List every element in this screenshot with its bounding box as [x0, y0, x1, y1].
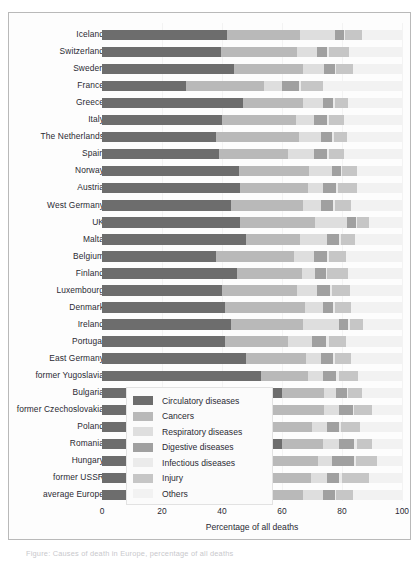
bar-segment	[342, 166, 357, 177]
bar-segment	[282, 81, 299, 92]
bar-segment	[323, 81, 402, 92]
bar-segment	[323, 98, 334, 109]
bar-segment	[300, 30, 335, 41]
bar-segment	[318, 456, 332, 467]
bar-row: Ireland	[9, 317, 412, 334]
bar-segment	[327, 234, 339, 245]
bar-segment	[338, 183, 358, 194]
bar-segment	[348, 388, 362, 399]
bar-segment	[329, 47, 349, 58]
bar-segment	[294, 251, 314, 262]
bar-track	[102, 302, 402, 313]
bar-segment	[341, 234, 355, 245]
bar-row-label: Denmark	[0, 302, 104, 313]
bar-segment	[102, 30, 227, 41]
bar-segment	[329, 149, 344, 160]
bar-segment	[321, 353, 333, 364]
bar-segment	[357, 217, 369, 228]
bar-segment	[372, 405, 402, 416]
legend-swatch-icon	[133, 458, 153, 467]
bar-segment	[351, 353, 402, 364]
bar-segment	[342, 473, 369, 484]
bar-segment	[345, 30, 362, 41]
bar-segment	[102, 336, 225, 347]
bar-segment	[335, 302, 352, 313]
bar-row-label: Poland	[0, 421, 104, 432]
bar-segment	[102, 47, 221, 58]
bar-track	[102, 47, 402, 58]
bar-segment	[339, 439, 354, 450]
legend-swatch-icon	[133, 443, 153, 452]
bar-track	[102, 217, 402, 228]
bar-segment	[311, 473, 328, 484]
bar-row-label: Greece	[0, 97, 104, 108]
bar-track	[102, 166, 402, 177]
bar-row-label: former Yugoslavia	[0, 370, 104, 381]
bar-row-label: Belgium	[0, 251, 104, 262]
bar-segment	[243, 98, 303, 109]
x-tick-label: 20	[157, 506, 166, 516]
legend-swatch-icon	[133, 474, 153, 483]
bar-segment	[288, 336, 312, 347]
bar-segment	[321, 200, 333, 211]
bar-segment	[237, 268, 302, 279]
legend-label: Circulatory diseases	[162, 396, 239, 406]
legend-item: Circulatory diseases	[127, 393, 272, 409]
bar-row: UK	[9, 215, 412, 232]
bar-segment	[323, 439, 340, 450]
bar-row-label: Austria	[0, 182, 104, 193]
bar-segment	[102, 98, 243, 109]
bar-row-label: former Czechoslovakia	[0, 404, 104, 415]
bar-segment	[234, 64, 303, 75]
bar-segment	[102, 132, 216, 143]
bar-segment	[335, 200, 352, 211]
bar-segment	[329, 251, 346, 262]
bar-segment	[360, 422, 402, 433]
bar-segment	[261, 371, 308, 382]
legend-label: Digestive diseases	[162, 442, 234, 452]
bar-segment	[312, 336, 326, 347]
bar-row: Portugal	[9, 334, 412, 351]
bar-row: Finland	[9, 266, 412, 283]
bar-segment	[324, 405, 339, 416]
bar-segment	[302, 268, 316, 279]
bar-segment	[303, 200, 321, 211]
bar-row: France	[9, 78, 412, 95]
bar-track	[102, 234, 402, 245]
bar-segment	[350, 319, 364, 330]
legend-swatch-icon	[133, 396, 153, 405]
legend-swatch-icon	[133, 489, 153, 498]
bar-segment	[346, 336, 402, 347]
bar-segment	[344, 149, 402, 160]
x-tick-label: 60	[277, 506, 286, 516]
bar-segment	[102, 115, 222, 126]
bar-segment	[327, 268, 348, 279]
bar-segment	[303, 64, 324, 75]
bar-segment	[231, 319, 303, 330]
bar-segment	[102, 319, 231, 330]
bar-segment	[341, 422, 361, 433]
bar-row: Norway	[9, 163, 412, 180]
bar-segment	[308, 371, 323, 382]
bar-row-label: Sweden	[0, 63, 104, 74]
bar-row-label: Malta	[0, 234, 104, 245]
bar-segment	[336, 490, 353, 501]
legend-swatch-icon	[133, 412, 153, 421]
bar-segment	[314, 251, 328, 262]
bar-segment	[324, 388, 336, 399]
bar-segment	[362, 30, 403, 41]
bar-segment	[309, 166, 332, 177]
bar-segment	[270, 473, 311, 484]
bar-segment	[357, 183, 402, 194]
bar-track	[102, 268, 402, 279]
bar-row: Malta	[9, 232, 412, 249]
bar-segment	[246, 234, 300, 245]
bar-segment	[323, 183, 337, 194]
bar-row: West Germany	[9, 198, 412, 215]
bar-track	[102, 353, 402, 364]
legend-item: Injury	[127, 471, 272, 487]
bar-segment	[335, 98, 349, 109]
bar-segment	[102, 166, 239, 177]
bar-row-label: Portugal	[0, 336, 104, 347]
bar-segment	[227, 30, 301, 41]
